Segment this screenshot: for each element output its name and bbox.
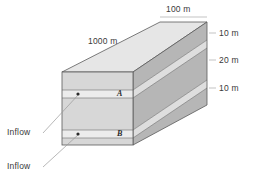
- inflow-label-lower: Inflow: [7, 162, 30, 171]
- inflow-arrowhead-upper: [76, 92, 79, 95]
- inflow-label-upper: Inflow: [7, 128, 30, 137]
- front-band-upper-thick: [62, 72, 133, 90]
- layer-label-a: A: [117, 90, 122, 98]
- front-band-middle-thick: [62, 98, 133, 130]
- dimension-label-layer-bottom: 10 m: [219, 84, 239, 93]
- dimension-label-width: 100 m: [166, 5, 191, 14]
- aquifer-figure: 1000 m 100 m 10 m 20 m 10 m A B Inflow I…: [0, 0, 269, 184]
- dimension-label-layer-top: 10 m: [219, 29, 239, 38]
- front-band-layer-b: [62, 130, 133, 138]
- layer-label-b: B: [117, 130, 122, 138]
- front-band-layer-a: [62, 90, 133, 98]
- dimension-label-length: 1000 m: [88, 37, 118, 46]
- inflow-arrowhead-lower: [76, 132, 79, 135]
- dimension-label-layer-middle: 20 m: [219, 56, 239, 65]
- front-band-bottom-thick: [62, 138, 133, 145]
- inflow-leader-lower: [43, 134, 79, 167]
